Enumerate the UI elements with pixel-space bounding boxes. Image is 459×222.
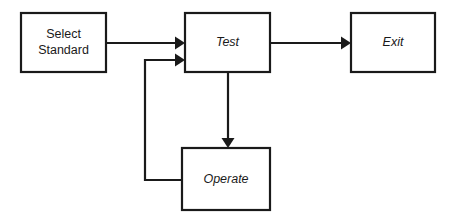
node-label-line2: Standard: [38, 43, 89, 57]
node-label: Test: [216, 35, 240, 49]
node-select-standard[interactable]: Select Standard: [21, 13, 106, 72]
edge-operate-to-test: [145, 54, 185, 181]
arrow-head-icon: [175, 37, 185, 50]
edge-line: [145, 60, 182, 180]
node-label-line1: Select: [46, 27, 81, 41]
flowchart-diagram: Select Standard Test Exit Operate: [0, 0, 459, 222]
edge-select-standard-to-test: [106, 37, 185, 50]
node-operate[interactable]: Operate: [182, 148, 270, 210]
node-exit[interactable]: Exit: [351, 13, 435, 72]
node-label: Exit: [383, 35, 404, 49]
edge-test-to-operate: [222, 72, 235, 148]
arrow-head-icon: [175, 54, 185, 67]
edge-test-to-exit: [270, 37, 351, 50]
node-test[interactable]: Test: [185, 13, 270, 72]
arrow-head-icon: [341, 37, 351, 50]
arrow-head-icon: [222, 138, 235, 148]
flowchart-canvas: Select Standard Test Exit Operate: [0, 0, 459, 222]
node-label: Operate: [203, 172, 248, 186]
